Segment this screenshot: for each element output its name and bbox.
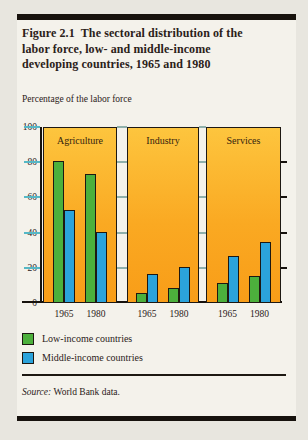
middle-income-bar-1965 bbox=[147, 274, 158, 302]
y-tick-left bbox=[24, 267, 40, 269]
gap-tick bbox=[117, 232, 127, 234]
x-axis-label: 1980 bbox=[249, 309, 271, 319]
bar-pair-1980 bbox=[249, 242, 271, 302]
legend-label: Low-income countries bbox=[42, 333, 132, 344]
middle-income-bar-1965 bbox=[228, 256, 239, 302]
low-income-bar-1965 bbox=[217, 283, 228, 302]
bottom-rule bbox=[17, 416, 296, 422]
source-note: Source: World Bank data. bbox=[22, 387, 120, 397]
gap-tick bbox=[117, 161, 127, 163]
legend-item-middle-income: Middle-income countries bbox=[22, 348, 143, 367]
x-axis-label: 1965 bbox=[217, 309, 239, 319]
y-tick-left bbox=[24, 196, 40, 198]
bar-pair-1965 bbox=[53, 161, 75, 302]
gap-tick bbox=[199, 267, 206, 269]
panel-industry: Industry bbox=[127, 127, 199, 303]
y-tick-right bbox=[281, 232, 287, 234]
gap-tick bbox=[117, 126, 127, 128]
gap-tick bbox=[199, 232, 206, 234]
figure-title-line-2: labor force, low- and middle-income bbox=[22, 42, 290, 58]
source-divider-rule bbox=[22, 374, 286, 376]
top-rule bbox=[17, 14, 296, 20]
legend-item-low-income: Low-income countries bbox=[22, 329, 143, 348]
middle-income-bar-1980 bbox=[179, 267, 190, 302]
source-label: Source: bbox=[22, 387, 51, 397]
bar-pair-1965 bbox=[217, 256, 239, 302]
low-income-bar-1980 bbox=[85, 174, 96, 302]
figure-title: Figure 2.1 The sectoral distribution of … bbox=[22, 26, 290, 73]
gap-tick bbox=[199, 161, 206, 163]
bars-group bbox=[44, 128, 116, 302]
middle-income-bar-1965 bbox=[64, 210, 75, 302]
bar-pair-1980 bbox=[168, 267, 190, 302]
middle-income-swatch-icon bbox=[22, 352, 34, 364]
low-income-bar-1965 bbox=[136, 293, 147, 302]
y-tick-right bbox=[281, 267, 287, 269]
bars-group bbox=[128, 128, 198, 302]
middle-income-bar-1980 bbox=[260, 242, 271, 302]
low-income-bar-1980 bbox=[249, 276, 260, 302]
y-tick-left bbox=[24, 161, 40, 163]
gap-tick bbox=[117, 196, 127, 198]
gap-tick bbox=[199, 126, 206, 128]
low-income-swatch-icon bbox=[22, 333, 34, 345]
panel-services: Services bbox=[206, 127, 281, 303]
bar-pair-1965 bbox=[136, 274, 158, 302]
year-labels: 19651980 bbox=[127, 309, 199, 319]
source-text: World Bank data. bbox=[53, 387, 120, 397]
middle-income-bar-1980 bbox=[96, 232, 107, 302]
year-labels: 19651980 bbox=[206, 309, 281, 319]
x-axis-label: 1980 bbox=[85, 309, 107, 319]
x-axis-label: 1965 bbox=[53, 309, 75, 319]
panel-agriculture: Agriculture bbox=[43, 127, 117, 303]
year-labels: 19651980 bbox=[43, 309, 117, 319]
gap-tick bbox=[199, 196, 206, 198]
plot-area: 020406080100Agriculture19651980Industry1… bbox=[0, 127, 308, 303]
figure-title-line-3: developing countries, 1965 and 1980 bbox=[22, 57, 290, 73]
y-tick-left bbox=[24, 126, 40, 128]
x-axis-label: 1965 bbox=[136, 309, 158, 319]
low-income-bar-1980 bbox=[168, 288, 179, 302]
legend-label: Middle-income countries bbox=[42, 352, 143, 363]
bars-group bbox=[207, 128, 280, 302]
gap-tick bbox=[117, 267, 127, 269]
y-axis-title: Percentage of the labor force bbox=[22, 94, 132, 104]
figure-title-line-1: Figure 2.1 The sectoral distribution of … bbox=[22, 26, 290, 42]
x-axis-label: 1980 bbox=[168, 309, 190, 319]
y-tick-right bbox=[281, 161, 287, 163]
y-axis-line bbox=[40, 127, 42, 303]
bar-pair-1980 bbox=[85, 174, 107, 302]
y-tick-right bbox=[281, 196, 287, 198]
legend: Low-income countries Middle-income count… bbox=[22, 329, 143, 367]
y-tick-left bbox=[24, 232, 40, 234]
figure-page: Figure 2.1 The sectoral distribution of … bbox=[0, 0, 308, 440]
low-income-bar-1965 bbox=[53, 161, 64, 302]
